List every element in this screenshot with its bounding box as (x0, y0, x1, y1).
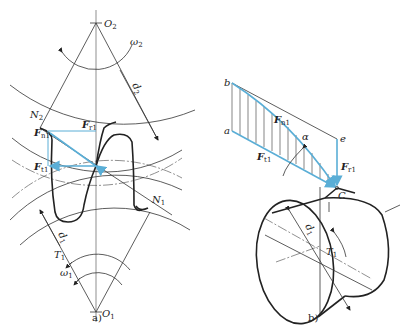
label-e: e (340, 133, 346, 144)
label-ft1-b: Ft1 (256, 151, 271, 164)
gear1-addendum-circle (20, 208, 190, 245)
cylinder-front-face (249, 195, 342, 328)
label-o2: O2 (104, 18, 117, 31)
cylinder-axis (264, 218, 372, 279)
axis-end-right (385, 205, 400, 212)
ft1-vector-b (232, 131, 335, 187)
panel-a: O2 ω2 N2 d2 Fn1 Fr1 Ft1 N1 d1 T1 ω1 O1 a… (10, 10, 195, 323)
label-t1-b: T1 (326, 246, 337, 259)
line-o2-n2 (40, 23, 96, 128)
caption-b: b) (308, 312, 318, 323)
load-distribution-hatch (232, 83, 328, 184)
cylinder-bottom-edge (318, 296, 345, 317)
omega2-arrow-icon (62, 45, 132, 70)
label-omega2: ω2 (130, 36, 143, 49)
label-a: a (224, 125, 230, 136)
fn1-vector (50, 133, 96, 166)
label-fn1-b: Fn1 (273, 114, 290, 127)
label-o1: O1 (102, 308, 115, 321)
label-t1-a: T1 (54, 249, 65, 262)
alpha-angle-arc (283, 148, 303, 176)
label-n2: N2 (29, 109, 43, 122)
gear-cylinder (249, 187, 400, 329)
label-b: b (224, 77, 230, 88)
gear-force-diagram: O2 ω2 N2 d2 Fn1 Fr1 Ft1 N1 d1 T1 ω1 O1 a… (0, 0, 410, 330)
label-fr1-b: Fr1 (340, 161, 356, 174)
tooth-contact-top (325, 188, 337, 198)
cylinder-top-edge (272, 198, 325, 213)
label-alpha: α (302, 131, 309, 142)
fn1-vector-b (232, 83, 335, 186)
caption-a: a) (92, 312, 102, 323)
tooth-tip-n1 (136, 206, 148, 210)
label-c: C (338, 190, 346, 201)
label-ft1-a: Ft1 (33, 161, 48, 174)
panel-b: b a e C α Fn1 Ft1 Fr1 d1 T1 b) (224, 77, 400, 329)
label-fr1-a: Fr1 (81, 119, 97, 132)
label-d1-a: d1 (54, 230, 71, 246)
line-o1-n1 (96, 212, 150, 312)
cylinder-horizontal-center (265, 235, 372, 290)
d1-diameter-arrow (289, 210, 350, 310)
label-omega1: ω1 (60, 267, 73, 280)
label-n1: N1 (151, 194, 165, 207)
omega1-arc (75, 273, 122, 285)
tooth-profile-right (96, 134, 142, 210)
